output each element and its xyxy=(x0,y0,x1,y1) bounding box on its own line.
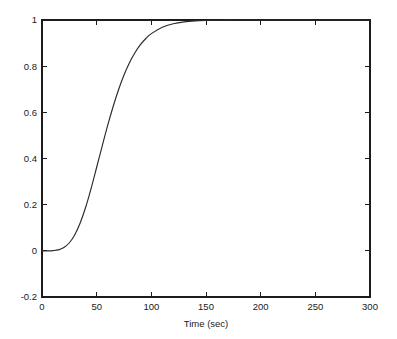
x-tick-label: 300 xyxy=(362,301,378,312)
y-tick-label: 1 xyxy=(32,14,37,25)
y-tick-label: 0.6 xyxy=(24,107,37,118)
figure-canvas: 050100150200250300 -0.200.20.40.60.81 Ti… xyxy=(0,0,397,339)
y-tick-label: 0.4 xyxy=(24,153,37,164)
x-tick-label: 250 xyxy=(307,301,323,312)
x-axis-title: Time (sec) xyxy=(184,318,229,329)
x-tick-label: 100 xyxy=(143,301,159,312)
y-tick-label: 0.8 xyxy=(24,61,37,72)
x-tick-label: 200 xyxy=(253,301,269,312)
x-tick-label: 150 xyxy=(198,301,214,312)
x-tick-label: 50 xyxy=(91,301,102,312)
y-tick-label: 0 xyxy=(32,245,37,256)
step-response-chart: 050100150200250300 -0.200.20.40.60.81 Ti… xyxy=(0,0,397,339)
chart-background xyxy=(0,0,397,339)
x-tick-label: 0 xyxy=(39,301,44,312)
y-tick-label: 0.2 xyxy=(24,199,37,210)
y-tick-label: -0.2 xyxy=(21,291,37,302)
